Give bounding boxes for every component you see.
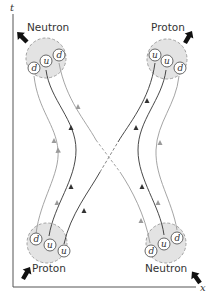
quark-label: d (32, 63, 38, 73)
arrowhead-icon (156, 200, 161, 205)
feynman-diagram: t x (0, 0, 212, 301)
x-axis-label: x (200, 282, 206, 293)
arrowhead-icon (158, 140, 163, 145)
nucleon-label: Neutron (145, 262, 187, 274)
arrowhead-icon (139, 218, 144, 223)
quark-label: u (47, 240, 53, 250)
arrowhead-icon (82, 208, 87, 213)
quark-line-left-outer (34, 76, 58, 234)
quark-line-exchange-up-upper (118, 63, 155, 142)
quark-label: u (161, 239, 167, 249)
quark-label: u (152, 50, 158, 60)
arrowhead-icon (55, 200, 60, 205)
quark-line-exchange-up (64, 172, 100, 244)
arrowhead-icon (140, 184, 145, 189)
quark-line-right-outer (156, 76, 179, 230)
arrowhead-icon (134, 125, 139, 130)
quark-label: d (149, 246, 155, 256)
arrowhead-icon (76, 104, 81, 109)
quark-label: d (34, 234, 40, 244)
nucleon-label: Proton (151, 21, 185, 33)
quark-label: u (44, 56, 50, 66)
t-axis-label: t (10, 2, 15, 13)
nucleon-label: Neutron (27, 21, 69, 33)
quark-line-right-middle (138, 70, 166, 235)
quark-label: d (57, 50, 63, 60)
quark-line-exchange-down-upper (59, 63, 96, 140)
line-arrowheads (52, 98, 163, 223)
quark-label: u (164, 56, 170, 66)
quark-label: d (178, 63, 184, 73)
nucleon-label: Proton (32, 262, 66, 274)
quark-lines (34, 63, 179, 244)
quark-line-left-middle (46, 70, 76, 236)
quark-label: u (61, 246, 67, 256)
arrowhead-icon (69, 125, 74, 130)
arrowhead-icon (69, 184, 74, 189)
quark-label: d (175, 233, 181, 243)
arrowhead-icon (145, 98, 150, 103)
